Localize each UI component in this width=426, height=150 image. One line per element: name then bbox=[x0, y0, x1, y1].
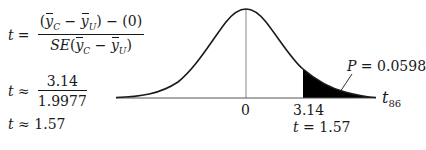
tick-label-observed-diff: 3.14 bbox=[293, 102, 324, 118]
t-stat-value: 1.57 bbox=[319, 119, 350, 135]
t-statistic-label: t = 1.57 bbox=[293, 119, 350, 135]
p-value-number: 0.0598 bbox=[377, 58, 426, 74]
axis-df-subscript: 86 bbox=[388, 98, 401, 109]
t-symbol: t bbox=[293, 119, 299, 135]
p-value-leader-line bbox=[340, 74, 352, 92]
tick-label-zero: 0 bbox=[241, 102, 250, 118]
axis-label-t86: t86 bbox=[382, 88, 401, 109]
p-value-annotation: P = 0.0598 bbox=[347, 58, 426, 74]
